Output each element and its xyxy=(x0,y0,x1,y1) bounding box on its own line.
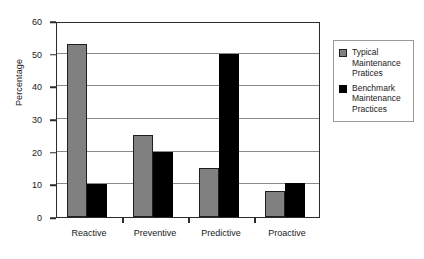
y-tick-label: 40 xyxy=(22,82,42,92)
x-tick-mark xyxy=(254,218,256,223)
y-tick-label: 60 xyxy=(22,17,42,27)
y-axis: 0102030405060 xyxy=(0,0,56,259)
bar-proactive-typical xyxy=(265,191,285,217)
legend-label-line1: Typical xyxy=(352,47,378,57)
x-tick-mark xyxy=(122,218,124,223)
bar-preventive-typical xyxy=(133,135,153,217)
x-tick-mark xyxy=(188,218,190,223)
plot-area xyxy=(56,22,320,218)
bar-predictive-typical xyxy=(199,168,219,217)
x-category-label-preventive: Preventive xyxy=(134,228,177,238)
legend-label-line2: Maintenance xyxy=(352,58,401,68)
y-tick-label: 50 xyxy=(22,50,42,60)
y-tick-label: 10 xyxy=(22,180,42,190)
y-tick-label: 30 xyxy=(22,115,42,125)
legend-label: Benchmark Maintenance Practices xyxy=(352,83,401,115)
legend-label-line3: Practices xyxy=(352,104,387,114)
x-category-label-predictive: Predictive xyxy=(201,228,241,238)
x-category-label-proactive: Proactive xyxy=(268,228,306,238)
bar-proactive-benchmark xyxy=(285,183,305,217)
black-swatch-icon xyxy=(339,85,347,93)
legend-item: Benchmark Maintenance Practices xyxy=(339,83,408,115)
legend-label: Typical Maintenance Pratices xyxy=(352,47,401,79)
chart-legend: Typical Maintenance Pratices Benchmark M… xyxy=(333,40,414,122)
bar-reactive-benchmark xyxy=(87,184,107,217)
x-category-label-reactive: Reactive xyxy=(71,228,106,238)
legend-label-line3: Pratices xyxy=(352,68,383,78)
bars-layer xyxy=(57,23,319,217)
chart-screenshot: Percentage 0102030405060 ReactivePrevent… xyxy=(0,0,424,259)
legend-label-line1: Benchmark xyxy=(352,83,395,93)
bar-reactive-typical xyxy=(67,44,87,217)
y-tick-label: 0 xyxy=(22,213,42,223)
gray-swatch-icon xyxy=(339,49,347,57)
bar-predictive-benchmark xyxy=(219,54,239,217)
legend-label-line2: Maintenance xyxy=(352,93,401,103)
y-tick-label: 20 xyxy=(22,148,42,158)
bar-preventive-benchmark xyxy=(153,152,173,217)
legend-item: Typical Maintenance Pratices xyxy=(339,47,408,79)
